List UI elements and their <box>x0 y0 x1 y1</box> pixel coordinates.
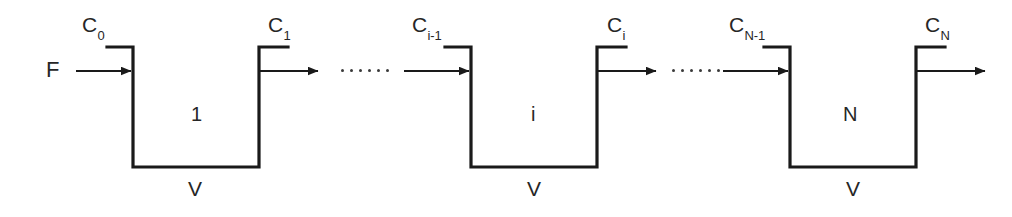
stream-label-cn-base: C <box>925 13 940 36</box>
stream-label-cn-minus-1-base: C <box>729 13 744 36</box>
ellipsis-dot <box>386 69 389 72</box>
stream-label-c0: C0 <box>82 14 105 35</box>
stream-label-ci-base: C <box>607 13 622 36</box>
ellipsis-dot <box>368 69 371 72</box>
ellipsis-dot <box>717 69 720 72</box>
tank-i-stage-label: i <box>531 104 535 124</box>
tank-n-stage-label: N <box>843 104 857 124</box>
ellipsis-dot <box>359 69 362 72</box>
stream-label-ci-minus-1: Ci-1 <box>412 14 442 35</box>
ellipsis-between-tank-1-and-i <box>341 69 389 72</box>
ellipsis-dot <box>350 69 353 72</box>
stream-label-c0-subscript: 0 <box>97 28 104 43</box>
ellipsis-between-tank-i-and-n <box>672 69 720 72</box>
stream-label-ci: Ci <box>607 14 625 35</box>
tank-1-stage-label: 1 <box>191 104 202 124</box>
ellipsis-dot <box>377 69 380 72</box>
tank-i-volume-label: V <box>527 178 541 199</box>
feed-flow-label: F <box>46 59 59 81</box>
stream-label-c1-subscript: 1 <box>283 28 290 43</box>
stream-label-cn-minus-1: CN-1 <box>729 14 765 35</box>
tank-n-volume-label: V <box>846 178 860 199</box>
ellipsis-dot <box>672 69 675 72</box>
stream-label-ci-subscript: i <box>622 28 625 43</box>
ellipsis-dot <box>341 69 344 72</box>
ellipsis-dot <box>681 69 684 72</box>
stream-label-c0-base: C <box>82 13 97 36</box>
cstr-cascade-diagram: F C0 C1 Ci-1 Ci CN-1 CN 1 i N V V V <box>0 0 1012 217</box>
stream-label-c1: C1 <box>268 14 291 35</box>
stream-label-cn-minus-1-subscript: N-1 <box>744 28 765 43</box>
tank-i-vessel <box>445 47 626 167</box>
ellipsis-dot <box>690 69 693 72</box>
ellipsis-dot <box>708 69 711 72</box>
ellipsis-dot <box>699 69 702 72</box>
stream-label-c1-base: C <box>268 13 283 36</box>
stream-label-cn: CN <box>925 14 950 35</box>
stream-label-cn-subscript: N <box>940 28 949 43</box>
stream-label-ci-minus-1-base: C <box>412 13 427 36</box>
tank-1-volume-label: V <box>188 178 202 199</box>
diagram-canvas <box>0 0 1012 217</box>
stream-label-ci-minus-1-subscript: i-1 <box>427 28 441 43</box>
